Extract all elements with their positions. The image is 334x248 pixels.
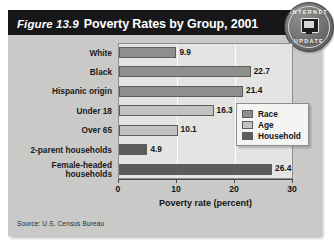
bar-value-label: 4.9 [150, 144, 162, 154]
chart-legend: RaceAgeHousehold [236, 103, 309, 146]
legend-swatch [242, 121, 253, 129]
category-label: 2-parent households [8, 146, 112, 155]
legend-label: Household [258, 131, 301, 141]
bar[interactable] [119, 164, 272, 175]
category-label: Under 18 [8, 107, 112, 116]
legend-swatch [242, 110, 253, 118]
source-note: Source: U.S. Census Bureau [17, 220, 104, 227]
axis-tick-label: 10 [161, 184, 191, 194]
figure-card: Figure 13.9Poverty Rates by Group, 2001 … [8, 10, 321, 236]
axis-tick-label: 30 [277, 184, 307, 194]
bar-value-label: 26.4 [275, 163, 291, 173]
bar-row: 9.9 [119, 44, 292, 63]
figure-header: Figure 13.9Poverty Rates by Group, 2001 [8, 10, 321, 35]
figure-header-text: Figure 13.9Poverty Rates by Group, 2001 [17, 14, 258, 32]
monitor-stand-icon [306, 31, 312, 34]
legend-item[interactable]: Age [242, 119, 301, 130]
category-label-column: WhiteBlackHispanic originUnder 18Over 65… [8, 43, 116, 179]
monitor-screen-glass [304, 21, 314, 28]
bar-value-label: 21.4 [246, 85, 262, 95]
bar-row: 22.7 [119, 63, 292, 82]
legend-label: Race [258, 109, 278, 119]
bar[interactable] [119, 144, 147, 155]
axis-tick [118, 179, 119, 183]
bar-value-label: 10.1 [181, 124, 197, 134]
category-label: Black [8, 68, 112, 77]
axis-tick [292, 179, 293, 183]
bar[interactable] [119, 66, 251, 77]
category-label: Hispanic origin [8, 87, 112, 96]
bar-value-label: 22.7 [254, 66, 270, 76]
category-label: Female-headedhouseholds [8, 161, 112, 179]
bar-row: 26.4 [119, 161, 292, 180]
bar[interactable] [119, 125, 178, 136]
category-label: Over 65 [8, 126, 112, 135]
bar-row: 21.4 [119, 83, 292, 102]
bar[interactable] [119, 86, 243, 97]
axis-tick-label: 0 [103, 184, 133, 194]
legend-label: Age [258, 120, 274, 130]
axis-tick [234, 179, 235, 183]
page-title: Poverty Rates by Group, 2001 [84, 17, 258, 31]
bar-value-label: 9.9 [179, 47, 191, 57]
bar-value-label: 16.3 [217, 105, 233, 115]
figure-body: WhiteBlackHispanic originUnder 18Over 65… [8, 35, 321, 236]
x-axis-line [118, 179, 293, 180]
legend-swatch [242, 132, 253, 140]
axis-tick [176, 179, 177, 183]
legend-item[interactable]: Race [242, 108, 301, 119]
figure-number: Figure 13.9 [17, 18, 79, 30]
bar[interactable] [119, 47, 176, 58]
axis-tick-label: 20 [219, 184, 249, 194]
category-label: White [8, 49, 112, 58]
x-axis-label: Poverty rate (percent) [118, 198, 293, 208]
badge-top-label: INTERNET [285, 9, 333, 15]
legend-item[interactable]: Household [242, 130, 301, 141]
bar[interactable] [119, 105, 214, 116]
